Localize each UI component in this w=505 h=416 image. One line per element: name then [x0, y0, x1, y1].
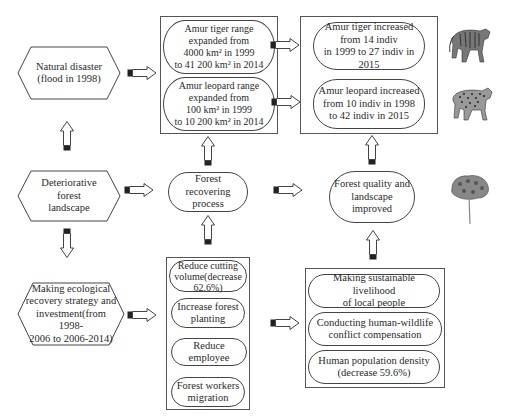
- leopard-population-node: Amur leopard increased from 10 indiv in …: [313, 79, 425, 129]
- workers-migration-node: Forest workers migration: [171, 377, 245, 407]
- tiger-icon: [448, 22, 492, 64]
- sustainable-livelihood-node: Making sustainable livelihood of local p…: [308, 274, 440, 308]
- arrow-right-icon: [127, 308, 157, 322]
- range-expansion-group: Amur tiger range expanded from 4000 km² …: [160, 16, 278, 134]
- conflict-compensation-node: Conducting human-wildlife conflict compe…: [308, 312, 442, 346]
- arrow-up-icon: [365, 135, 379, 165]
- population-increase-group: Amur tiger increased from 14 indiv in 19…: [300, 16, 438, 134]
- arrow-right-icon: [270, 38, 300, 52]
- deteriorative-forest-label: Deteriorative forest landscape: [17, 170, 121, 222]
- forest-recovering-node: Forest recovering process: [168, 172, 248, 212]
- arrow-up-icon: [60, 121, 74, 151]
- increase-planting-node: Increase forest planting: [171, 298, 245, 328]
- tree-icon: [448, 172, 492, 228]
- natural-disaster-label: Natural disaster (flood in 1998): [17, 46, 121, 100]
- arrow-right-icon: [273, 183, 303, 197]
- arrow-right-icon: [127, 66, 157, 80]
- tiger-range-node: Amur tiger range expanded from 4000 km² …: [163, 20, 275, 74]
- strategy-label: Making ecological recovery strategy and …: [17, 282, 125, 346]
- arrow-down-icon: [60, 228, 74, 258]
- forest-actions-group: Reduce cutting volume(decrease 62.6%) In…: [166, 257, 250, 410]
- forest-quality-node: Forest quality and landscape improved: [329, 171, 415, 223]
- population-density-node: Human population density (decrease 59.6%…: [308, 350, 440, 384]
- strategy-node: Making ecological recovery strategy and …: [17, 282, 125, 346]
- natural-disaster-node: Natural disaster (flood in 1998): [17, 46, 121, 100]
- arrow-up-icon: [366, 230, 380, 260]
- tiger-population-node: Amur tiger increased from 14 indiv in 19…: [313, 22, 425, 70]
- arrow-up-icon: [201, 215, 215, 245]
- arrow-right-icon: [124, 183, 154, 197]
- reduce-cutting-node: Reduce cutting volume(decrease 62.6%): [169, 260, 247, 292]
- leopard-icon: [450, 80, 494, 122]
- arrow-right-icon: [270, 316, 300, 330]
- arrow-up-icon: [201, 136, 215, 166]
- deteriorative-forest-node: Deteriorative forest landscape: [17, 170, 121, 222]
- reduce-employee-node: Reduce employee: [171, 338, 247, 366]
- arrow-right-icon: [271, 95, 301, 109]
- leopard-range-node: Amur leopard range expanded from 100 km²…: [163, 77, 275, 131]
- social-measures-group: Making sustainable livelihood of local p…: [305, 268, 445, 388]
